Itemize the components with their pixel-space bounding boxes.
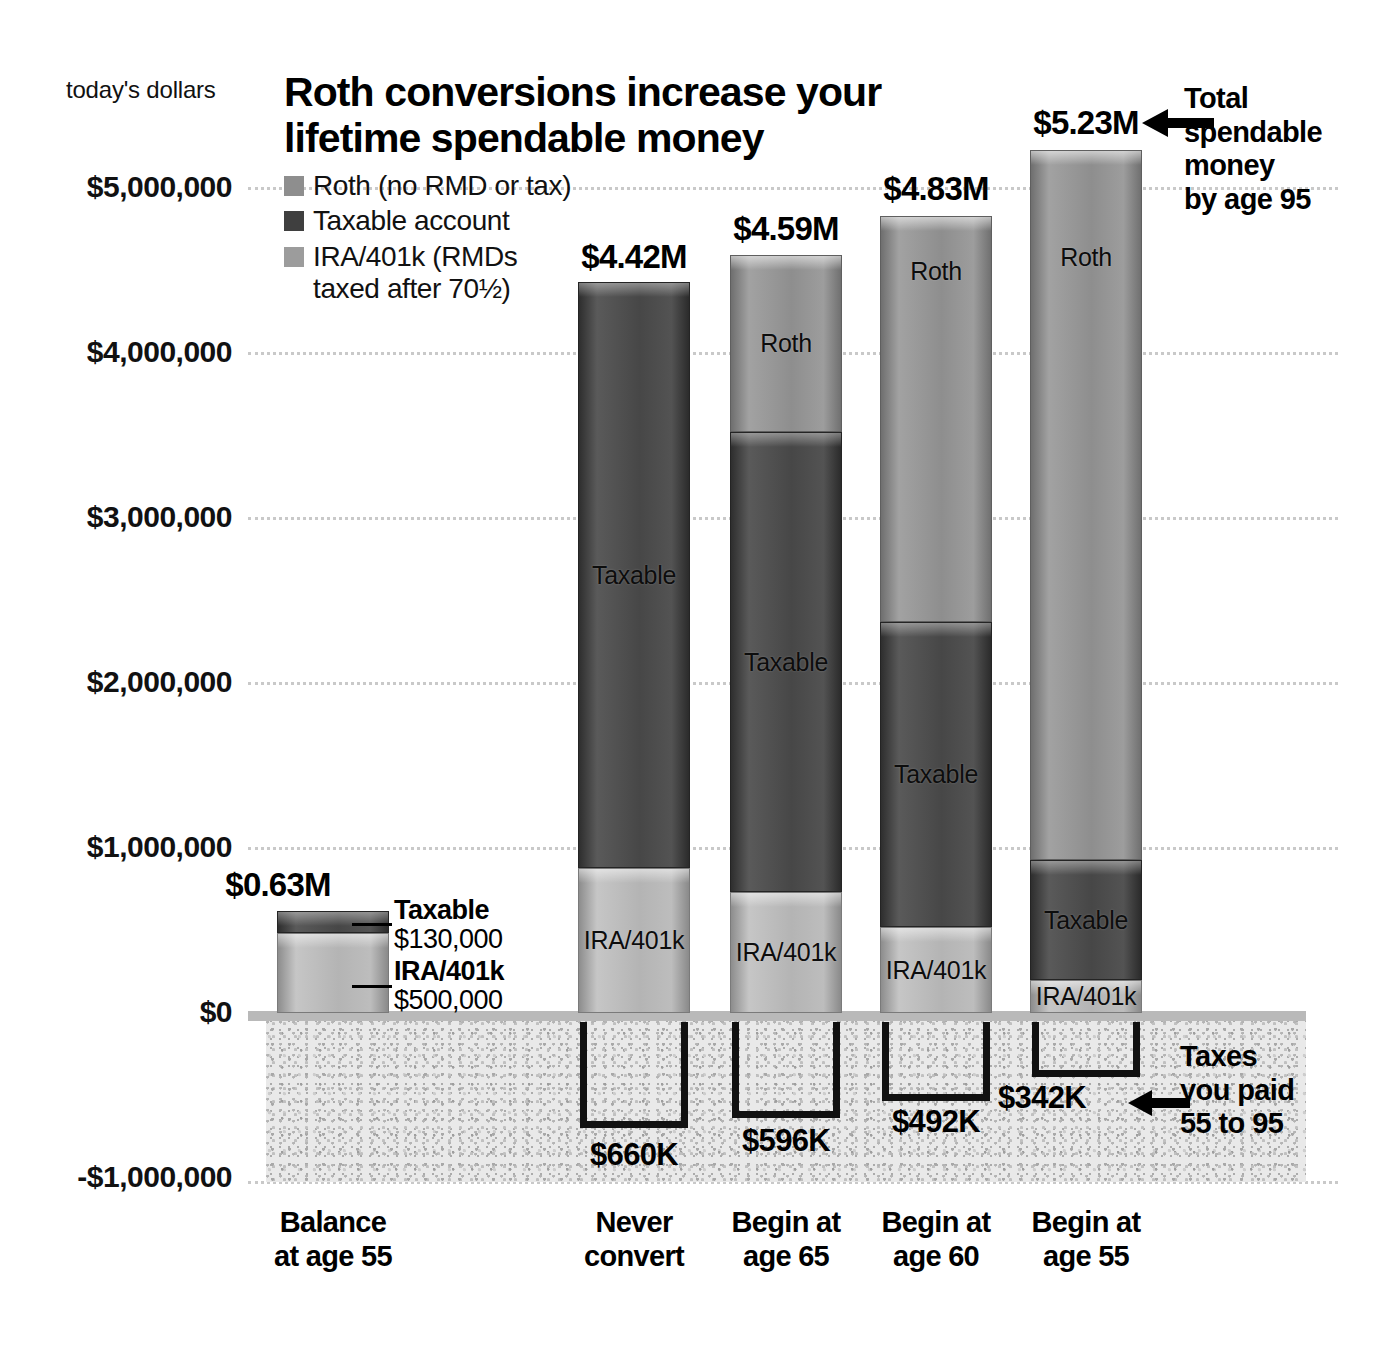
xlabel-begin-at-age-55: Begin at age 55 [986, 1205, 1186, 1273]
legend-swatch-roth [284, 176, 304, 196]
xlabel-1-line2: convert [584, 1240, 684, 1272]
segment-taxable-0[interactable] [277, 911, 389, 933]
xlabel-3-line2: age 60 [893, 1240, 979, 1272]
legend-item-taxable: Taxable account [284, 205, 614, 237]
segment-taxable-3[interactable]: Taxable [880, 622, 992, 927]
bar-total-label-3: $4.83M [826, 170, 1046, 208]
segment-ira-3[interactable]: IRA/401k [880, 927, 992, 1013]
bar-begin-at-age-55[interactable]: Roth Taxable IRA/401k [1030, 150, 1142, 1013]
segment-taxable-2[interactable]: Taxable [730, 432, 842, 892]
ytick-5m: $5,000,000 [0, 170, 232, 204]
legend-swatch-ira [284, 247, 304, 267]
tax-bracket-never-convert [580, 1022, 688, 1128]
segment-label-taxable-4: Taxable [1044, 906, 1128, 935]
leader-line-taxable [352, 923, 392, 926]
bar-never-convert[interactable]: Taxable IRA/401k [578, 282, 690, 1013]
chart-canvas: today's dollars $5,000,000 $4,000,000 $3… [0, 0, 1388, 1345]
xlabel-3-line1: Begin at [882, 1206, 991, 1238]
segment-roth-3[interactable]: Roth [880, 216, 992, 622]
annotation-taxes-paid: Taxes you paid 55 to 95 [1180, 1040, 1360, 1141]
segment-label-taxable-3: Taxable [894, 760, 978, 789]
segment-label-ira-4: IRA/401k [1036, 982, 1136, 1011]
segment-ira-4[interactable]: IRA/401k [1030, 980, 1142, 1013]
xlabel-4-line1: Begin at [1032, 1206, 1141, 1238]
legend-label-ira-line1: IRA/401k (RMDs [313, 241, 517, 272]
annotation-total-spendable-line2: spendable [1184, 116, 1322, 148]
callout-ira-title: IRA/401k [394, 957, 504, 985]
xlabel-2-line2: age 65 [743, 1240, 829, 1272]
segment-ira-1[interactable]: IRA/401k [578, 868, 690, 1013]
bar-total-label-0: $0.63M [168, 866, 388, 904]
ytick-4m: $4,000,000 [0, 335, 232, 369]
callout-ira: IRA/401k $500,000 [394, 957, 504, 1016]
ytick-neg1m: -$1,000,000 [0, 1160, 232, 1194]
legend-label-ira-line2: taxed after 70½) [313, 273, 511, 304]
segment-label-ira-2: IRA/401k [736, 938, 836, 967]
callout-taxable-title: Taxable [394, 896, 503, 924]
annotation-taxes-paid-line2: you paid [1180, 1074, 1294, 1106]
ytick-3m: $3,000,000 [0, 500, 232, 534]
segment-label-roth-4: Roth [1060, 243, 1112, 272]
callout-taxable-value: $130,000 [394, 924, 503, 954]
segment-label-taxable-1: Taxable [592, 561, 676, 590]
xlabel-2-line1: Begin at [732, 1206, 841, 1238]
segment-roth-4[interactable]: Roth [1030, 150, 1142, 860]
bar-total-label-2: $4.59M [676, 210, 896, 248]
tax-label-begin-55: $342K [942, 1080, 1142, 1116]
ytick-1m: $1,000,000 [0, 830, 232, 864]
legend-label-ira: IRA/401k (RMDs taxed after 70½) [313, 241, 517, 306]
leader-line-ira [352, 985, 392, 988]
ytick-0: $0 [0, 995, 232, 1029]
ytick-2m: $2,000,000 [0, 665, 232, 699]
segment-label-ira-1: IRA/401k [584, 926, 684, 955]
segment-label-ira-3: IRA/401k [886, 956, 986, 985]
xlabel-0-line2: at age 55 [274, 1240, 392, 1272]
segment-label-roth-3: Roth [910, 257, 962, 286]
bar-balance-at-age-55[interactable] [277, 911, 389, 1013]
bar-begin-at-age-60[interactable]: Roth Taxable IRA/401k [880, 216, 992, 1013]
callout-ira-value: $500,000 [394, 985, 504, 1015]
legend-label-roth: Roth (no RMD or tax) [313, 170, 571, 202]
bar-begin-at-age-65[interactable]: Roth Taxable IRA/401k [730, 255, 842, 1013]
legend-swatch-taxable [284, 211, 304, 231]
annotation-taxes-paid-line3: 55 to 95 [1180, 1107, 1283, 1139]
xlabel-balance-at-age-55: Balance at age 55 [233, 1205, 433, 1273]
xlabel-0-line1: Balance [280, 1206, 386, 1238]
callout-taxable: Taxable $130,000 [394, 896, 503, 955]
segment-label-roth-2: Roth [760, 329, 812, 358]
annotation-total-spendable-line1: Total [1184, 82, 1248, 114]
segment-ira-0[interactable] [277, 933, 389, 1013]
annotation-total-spendable: Total spendable money by age 95 [1184, 82, 1374, 217]
tax-bracket-begin-65 [732, 1022, 840, 1118]
xlabel-1-line1: Never [595, 1206, 672, 1238]
segment-label-taxable-2: Taxable [744, 648, 828, 677]
axis-units-note: today's dollars [66, 76, 216, 104]
segment-taxable-4[interactable]: Taxable [1030, 860, 1142, 980]
xlabel-4-line2: age 55 [1043, 1240, 1129, 1272]
segment-ira-2[interactable]: IRA/401k [730, 892, 842, 1013]
title-line-1: Roth conversions increase your [284, 69, 881, 115]
legend-item-roth: Roth (no RMD or tax) [284, 170, 614, 202]
annotation-taxes-paid-line1: Taxes [1180, 1040, 1257, 1072]
annotation-total-spendable-line4: by age 95 [1184, 183, 1311, 215]
tax-bracket-begin-55 [1032, 1022, 1140, 1077]
segment-taxable-1[interactable]: Taxable [578, 282, 690, 868]
legend-label-taxable: Taxable account [313, 205, 509, 237]
title-line-2: lifetime spendable money [284, 115, 764, 161]
page-title: Roth conversions increase your lifetime … [284, 70, 924, 162]
annotation-total-spendable-line3: money [1184, 149, 1274, 181]
segment-roth-2[interactable]: Roth [730, 255, 842, 432]
